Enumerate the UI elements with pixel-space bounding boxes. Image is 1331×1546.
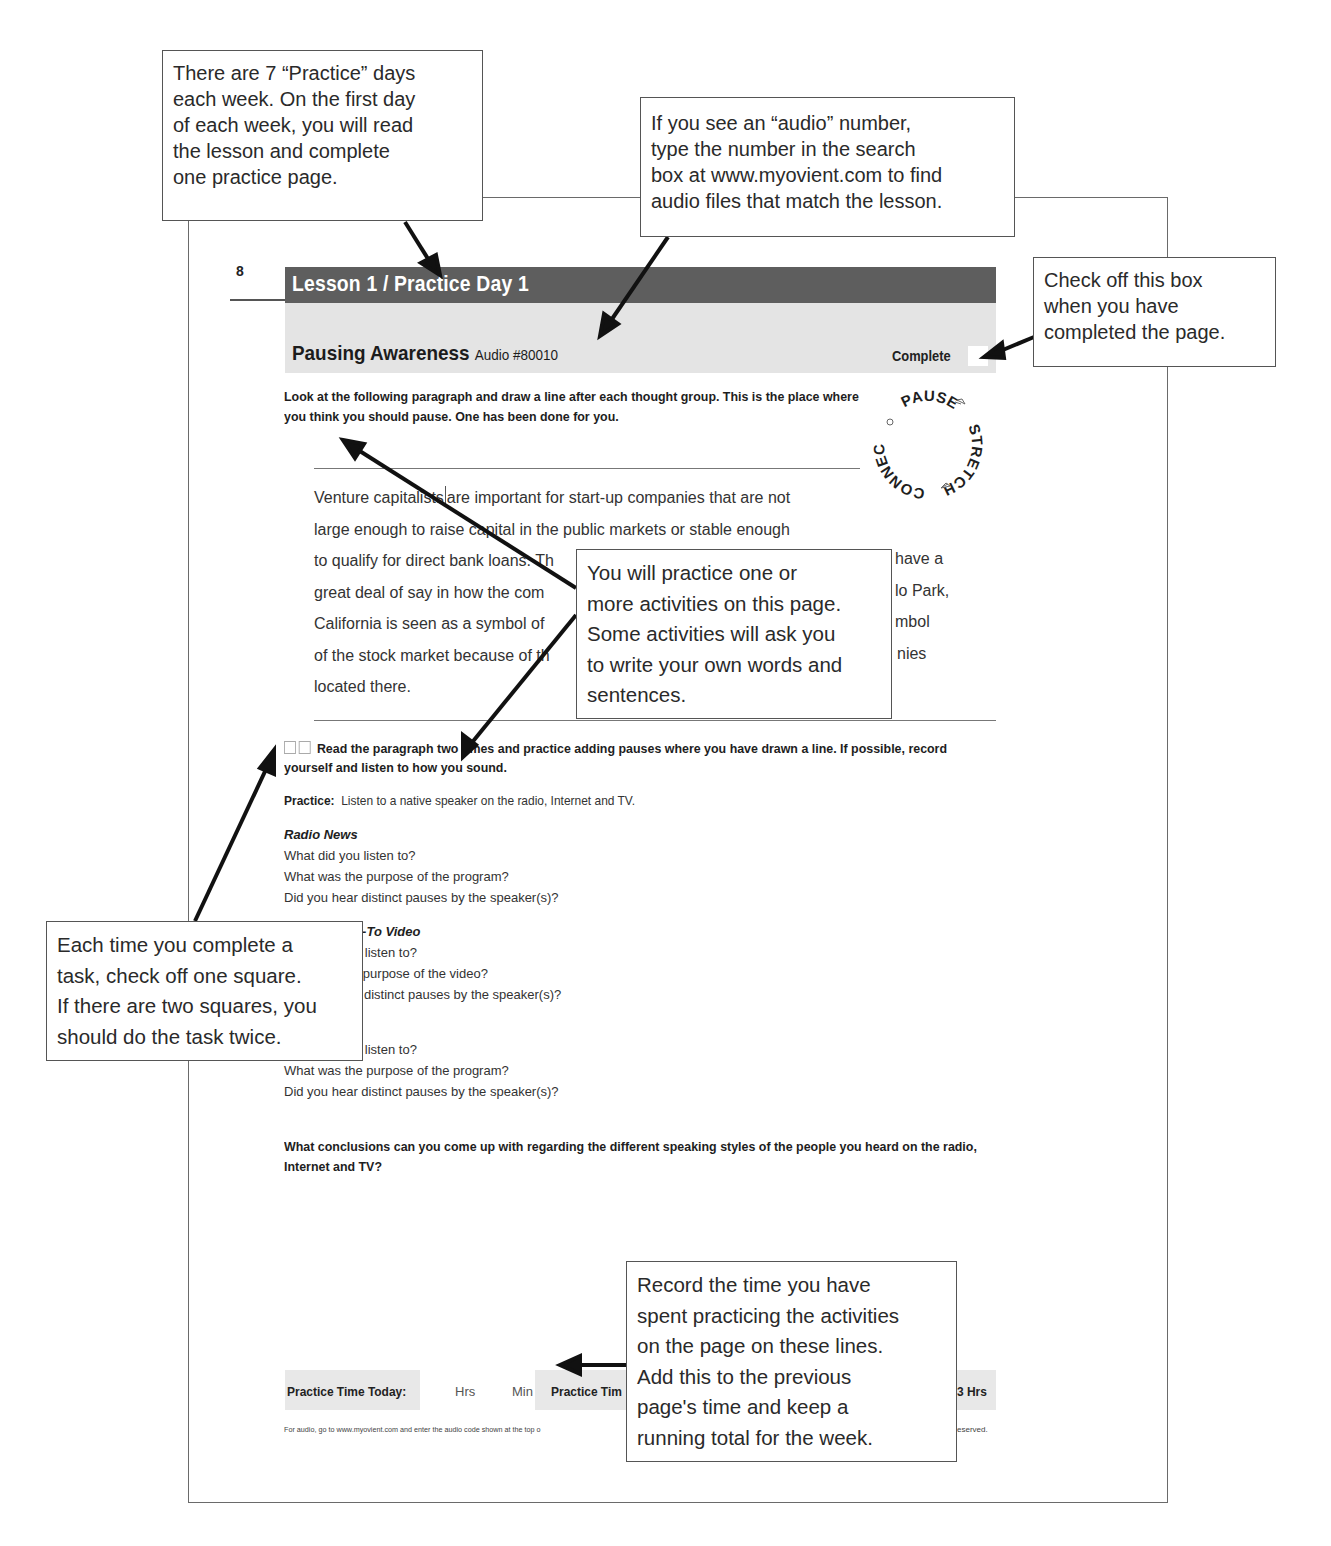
ring-dot-icon — [887, 419, 893, 425]
section-question: What was the purpose of the program? — [284, 1060, 559, 1081]
paragraph-text: are important for start-up companies tha… — [447, 489, 790, 506]
task-text: Read the paragraph two times and practic… — [284, 741, 947, 775]
callout-text: page's time and keep a — [637, 1392, 946, 1423]
paragraph-tail: nies — [897, 645, 926, 663]
callout-text: task, check off one square. — [57, 961, 352, 992]
callout-squares: Each time you complete a task, check off… — [46, 921, 363, 1061]
callout-text: when you have — [1044, 293, 1265, 319]
section-question: Did you hear distinct pauses by the spea… — [284, 887, 559, 908]
callout-text: Each time you complete a — [57, 930, 352, 961]
section-radio-news: Radio News What did you listen to? What … — [284, 824, 559, 908]
task-checkbox-2[interactable] — [299, 741, 311, 754]
pause-mark — [445, 486, 446, 506]
callout-text: If you see an “audio” number, — [651, 110, 1004, 136]
paragraph-text: Venture capitalists — [314, 489, 444, 506]
paragraph-line: large enough to raise capital in the pub… — [314, 514, 874, 546]
callout-text: audio files that match the lesson. — [651, 188, 1004, 214]
practice-line: Practice: Listen to a native speaker on … — [284, 793, 635, 808]
paragraph-tail: mbol — [895, 613, 930, 631]
section-question: What did you listen to? — [284, 845, 559, 866]
callout-text: one practice page. — [173, 164, 472, 190]
task-checkbox-1[interactable] — [284, 741, 296, 754]
callout-time: Record the time you have spent practicin… — [626, 1261, 957, 1462]
callout-text: running total for the week. — [637, 1423, 946, 1454]
paragraph-line: Venture capitalistsare important for sta… — [314, 482, 874, 514]
callout-text: Record the time you have — [637, 1270, 946, 1301]
callout-text: on the page on these lines. — [637, 1331, 946, 1362]
callout-text: You will practice one or — [587, 558, 881, 589]
practice-time-today-label: Practice Time Today: — [287, 1384, 406, 1399]
paragraph-top-rule — [314, 468, 860, 469]
callout-practice-days: There are 7 “Practice” days each week. O… — [162, 50, 483, 221]
activity-title: Pausing Awareness Audio #80010 — [292, 341, 558, 365]
section-question: What was the purpose of the program? — [284, 866, 559, 887]
paragraph-bottom-rule — [314, 720, 996, 721]
complete-checkbox[interactable] — [968, 346, 988, 366]
callout-text: type the number in the search — [651, 136, 1004, 162]
svg-text:PAUSE: PAUSE — [898, 387, 961, 412]
hrs-label: Hrs — [455, 1384, 475, 1399]
callout-text: spent practicing the activities — [637, 1301, 946, 1332]
section-how-to-video: w-To Video u listen to? e purpose of the… — [352, 921, 561, 1005]
callout-text: There are 7 “Practice” days — [173, 60, 472, 86]
callout-text: Some activities will ask you — [587, 619, 881, 650]
page-number: 8 — [236, 263, 244, 279]
practice-label: Practice: — [284, 793, 335, 808]
section-question: u listen to? — [354, 1039, 559, 1060]
instructions: Look at the following paragraph and draw… — [284, 387, 864, 427]
section-question: Did you hear distinct pauses by the spea… — [284, 1081, 559, 1102]
callout-text: If there are two squares, you — [57, 991, 352, 1022]
practice-time-total-label: Practice Tim — [551, 1384, 622, 1399]
page-number-rule — [230, 299, 286, 301]
task-instruction: Read the paragraph two times and practic… — [284, 739, 996, 777]
callout-text: more activities on this page. — [587, 589, 881, 620]
min-label: Min — [512, 1384, 533, 1399]
section-heading: Radio News — [284, 824, 559, 845]
svg-text:STRETCH: STRETCH — [941, 422, 987, 500]
pause-stretch-connect-logo: PAUSE STRETCH CONNECT — [858, 380, 998, 510]
practice-text: Listen to a native speaker on the radio,… — [341, 793, 635, 808]
complete-label: Complete — [892, 348, 951, 364]
goal-hours-label: 3 Hrs — [957, 1384, 987, 1399]
footer-note: For audio, go to www.myovient.com and en… — [284, 1425, 541, 1434]
callout-text: the lesson and complete — [173, 138, 472, 164]
section-question: u listen to? — [354, 942, 561, 963]
section-heading: w-To Video — [352, 921, 561, 942]
paragraph-tail: lo Park, — [895, 582, 949, 600]
callout-text: sentences. — [587, 680, 881, 711]
callout-activities: You will practice one or more activities… — [576, 549, 892, 719]
section-question: e purpose of the video? — [352, 963, 561, 984]
activity-title-text: Pausing Awareness — [292, 341, 470, 364]
callout-text: Check off this box — [1044, 267, 1265, 293]
footer-rights: eserved. — [957, 1425, 988, 1434]
paragraph-tail: have a — [895, 550, 943, 568]
callout-audio-number: If you see an “audio” number, type the n… — [640, 97, 1015, 237]
lesson-title: Lesson 1 / Practice Day 1 — [292, 271, 529, 297]
callout-check-box: Check off this box when you have complet… — [1033, 257, 1276, 367]
callout-text: to write your own words and — [587, 650, 881, 681]
callout-text: of each week, you will read — [173, 112, 472, 138]
callout-text: Add this to the previous — [637, 1362, 946, 1393]
callout-text: each week. On the first day — [173, 86, 472, 112]
callout-text: box at www.myovient.com to find — [651, 162, 1004, 188]
conclusion-question: What conclusions can you come up with re… — [284, 1137, 983, 1177]
callout-text: completed the page. — [1044, 319, 1265, 345]
audio-code: Audio #80010 — [475, 346, 558, 363]
section-question: r distinct pauses by the speaker(s)? — [356, 984, 561, 1005]
callout-text: should do the task twice. — [57, 1022, 352, 1053]
